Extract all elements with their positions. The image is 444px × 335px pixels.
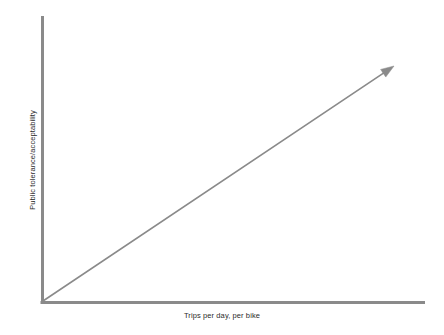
y-axis-label: Public tolerance/acceptability [28,110,37,210]
chart-canvas [0,0,444,335]
trend-arrow-head-icon [381,66,394,77]
x-axis-label: Trips per day, per bike [0,312,444,320]
chart-figure: Trips per day, per bike Public tolerance… [0,0,444,335]
trend-arrow-line [43,72,386,301]
